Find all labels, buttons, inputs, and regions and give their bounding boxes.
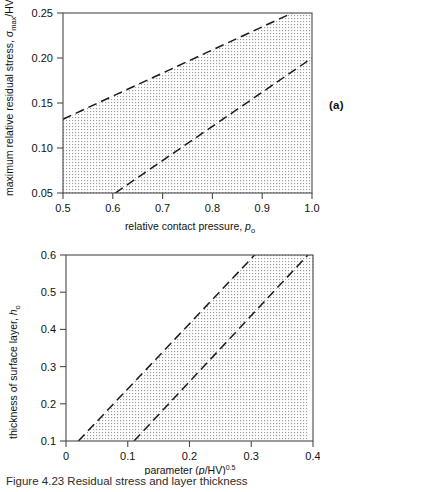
panel-b-y-ticks [60, 255, 66, 441]
panel-b-ytick-2: 0.3 [41, 361, 56, 373]
panel-b-ylabel: thickness of surface layer, ho [7, 305, 22, 439]
panel-b-ytick-5: 0.6 [41, 249, 56, 261]
figure-caption: Figure 4.23 Residual stress and layer th… [6, 474, 436, 489]
panel-a-y-ticklabels: 0.05 0.10 0.15 0.20 0.25 [32, 7, 53, 199]
panel-b-y-ticklabels: 0.1 0.2 0.3 0.4 0.5 0.6 [41, 249, 56, 447]
panel-a-x-ticklabels: 0.5 0.6 0.7 0.8 0.9 1.0 [55, 202, 319, 214]
panel-a-ytick-0: 0.05 [32, 187, 53, 199]
panel-a-xtick-2: 0.7 [155, 202, 170, 214]
panel-b-ytick-1: 0.2 [41, 398, 56, 410]
panel-b-ytick-3: 0.4 [41, 323, 56, 335]
panel-a-letter: (a) [329, 99, 344, 111]
panel-b-band [78, 255, 313, 441]
panel-b-xtick-3: 0.3 [244, 450, 259, 462]
panel-b-band-fill [78, 255, 313, 441]
panel-a-ytick-2: 0.15 [32, 97, 53, 109]
panel-b-ytick-4: 0.5 [41, 286, 56, 298]
figure-container: 0.05 0.10 0.15 0.20 0.25 0.5 0.6 0.7 0.8 [0, 0, 448, 492]
panel-a-ytick-3: 0.20 [32, 52, 53, 64]
panel-a-xlabel: relative contact pressure, po [125, 220, 255, 235]
panel-b-ytick-0: 0.1 [41, 435, 56, 447]
panel-a-ytick-1: 0.10 [32, 142, 53, 154]
panel-a-xtick-1: 0.6 [105, 202, 120, 214]
panel-a-plot: 0.05 0.10 0.15 0.20 0.25 0.5 0.6 0.7 0.8 [0, 0, 320, 236]
panel-a-xtick-5: 1.0 [304, 202, 319, 214]
panel-b-x-ticklabels: 0 0.1 0.2 0.3 0.4 [63, 450, 320, 462]
panel-a-xtick-3: 0.8 [205, 202, 220, 214]
panel-a: 0.05 0.10 0.15 0.20 0.25 0.5 0.6 0.7 0.8 [0, 0, 320, 236]
panel-b-x-ticks [66, 441, 313, 447]
panel-a-band-fill [63, 13, 320, 193]
panel-b-xtick-1: 0.1 [120, 450, 135, 462]
panel-b: 0.1 0.2 0.3 0.4 0.5 0.6 0 0.1 0.2 0.3 0 [0, 243, 320, 475]
panel-a-x-ticks [63, 193, 312, 199]
panel-a-xtick-0: 0.5 [55, 202, 70, 214]
panel-a-band [63, 13, 320, 193]
panel-b-xtick-0: 0 [63, 450, 69, 462]
panel-a-xtick-4: 0.9 [255, 202, 270, 214]
panel-b-xtick-4: 0.4 [305, 450, 320, 462]
panel-a-ytick-4: 0.25 [32, 7, 53, 19]
panel-a-y-ticks [57, 13, 63, 193]
panel-b-xtick-2: 0.2 [182, 450, 197, 462]
panel-b-plot: 0.1 0.2 0.3 0.4 0.5 0.6 0 0.1 0.2 0.3 0 [0, 243, 320, 475]
panel-a-ylabel: maximum relative residual stress, σmax/H… [3, 0, 18, 196]
